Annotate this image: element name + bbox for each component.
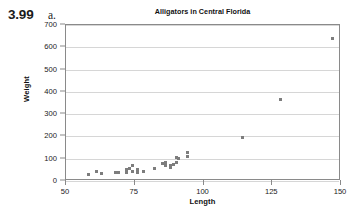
data-point: [175, 161, 178, 164]
x-tick-label: 150: [334, 187, 347, 196]
y-tick-label: 500: [44, 64, 57, 73]
data-point: [87, 173, 90, 176]
y-tick-label: 200: [44, 131, 57, 140]
x-tick-mark: [65, 180, 66, 185]
x-tick-mark: [271, 180, 272, 185]
data-point: [136, 171, 139, 174]
y-tick-label: 400: [44, 86, 57, 95]
data-point: [186, 151, 189, 154]
data-point: [186, 155, 189, 158]
data-point: [164, 161, 167, 164]
x-tick-label: 100: [196, 187, 209, 196]
y-tick-label: 700: [44, 20, 57, 29]
x-tick-mark: [340, 180, 341, 185]
x-tick-label: 75: [130, 187, 138, 196]
data-point: [100, 172, 103, 175]
x-tick-mark: [203, 180, 204, 185]
data-point: [131, 170, 134, 173]
x-tick-label: 50: [61, 187, 69, 196]
data-point: [153, 167, 156, 170]
data-point: [164, 164, 167, 167]
data-point: [142, 170, 145, 173]
y-tick-label: 300: [44, 109, 57, 118]
data-point: [125, 171, 128, 174]
y-axis-ticks: 0100200300400500600700: [0, 24, 65, 180]
data-point: [95, 170, 98, 173]
data-point: [331, 37, 334, 40]
x-axis-title: Length: [65, 197, 340, 206]
y-tick-label: 0: [53, 176, 57, 185]
x-tick-label: 125: [265, 187, 278, 196]
y-tick-label: 600: [44, 42, 57, 51]
exercise-number: 3.99: [8, 7, 33, 22]
chart-title: Alligators in Central Florida: [65, 7, 340, 16]
data-points-layer: [66, 25, 339, 179]
data-point: [131, 164, 134, 167]
x-tick-mark: [134, 180, 135, 185]
data-point: [117, 171, 120, 174]
data-point: [241, 136, 244, 139]
data-point: [279, 98, 282, 101]
data-point: [172, 163, 175, 166]
y-tick-label: 100: [44, 153, 57, 162]
scatter-plot-area: [65, 24, 340, 180]
data-point: [177, 157, 180, 160]
